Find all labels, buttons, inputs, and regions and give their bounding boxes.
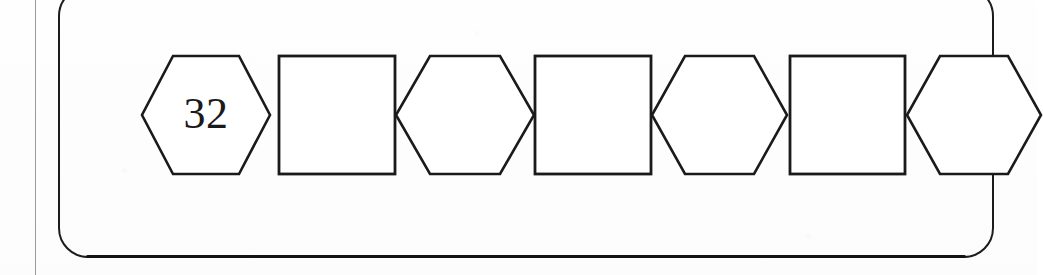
square-icon (277, 54, 397, 176)
page-margin-line (35, 0, 36, 275)
hexagon-icon (394, 54, 536, 176)
answer-box-container: 32 (58, 0, 994, 258)
square-icon (533, 54, 653, 176)
shape-cell-4[interactable] (650, 54, 789, 176)
shape-cell-1[interactable] (277, 54, 397, 176)
hexagon-icon (905, 54, 1043, 176)
shape-strip: 32 (140, 54, 1043, 178)
shape-cell-6[interactable] (905, 54, 1043, 176)
square-icon (788, 54, 907, 176)
shape-cell-0[interactable]: 32 (140, 54, 272, 176)
shape-cell-3[interactable] (533, 54, 653, 176)
hexagon-icon (650, 54, 789, 176)
shape-cell-5[interactable] (788, 54, 907, 176)
shape-cell-2[interactable] (394, 54, 536, 176)
shape-cell-0-value: 32 (184, 92, 229, 136)
